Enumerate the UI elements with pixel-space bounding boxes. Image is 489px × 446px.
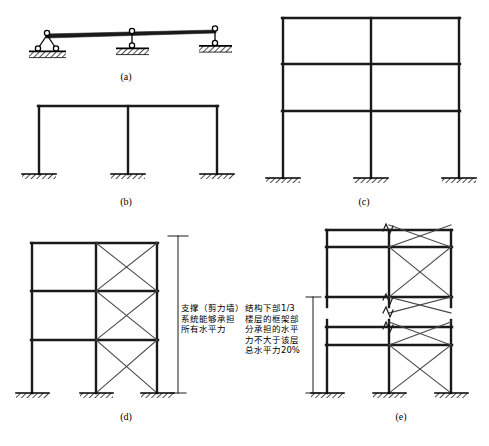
fixed-base-left [266, 178, 300, 183]
annotation-note-d: 支撑（剪力墙） 系统能够承担 所有水平力 [181, 303, 247, 335]
brace-upper-main [389, 247, 451, 297]
annotation-note-e: 结构下部1/3 楼层的框架部 分承担的水平 力不大于该层 总水平力20% [245, 303, 315, 356]
brace-lower-top-partial [389, 322, 451, 345]
brace-story2 [96, 291, 157, 340]
diagram-canvas [0, 0, 489, 446]
break-zigzag [383, 307, 393, 317]
panel-b-group [22, 106, 234, 179]
panel-e-group [306, 224, 468, 398]
panel-caption-c: (c) [334, 197, 394, 207]
panel-d-group [16, 236, 188, 398]
brace-upper-top [389, 225, 451, 247]
fixed-base-left [22, 174, 56, 179]
note-e-line-4: 力不大于该层 [245, 335, 315, 346]
brace-story1 [96, 340, 157, 393]
panel-c-group [266, 18, 476, 183]
ground-hatch [29, 51, 66, 57]
panel-caption-e: (e) [371, 412, 431, 422]
fixed-base-right [442, 178, 476, 183]
note-e-line-2: 楼层的框架部 [245, 314, 315, 325]
note-e-line-5: 总水平力20% [245, 345, 315, 356]
support-roller-right [199, 26, 232, 52]
fixed-base-left [16, 393, 49, 398]
roller-bottom-circle [212, 40, 217, 45]
brace-lower-main [389, 345, 451, 393]
pin-hinge-circle [44, 30, 49, 35]
brace-story3 [96, 243, 157, 291]
fixed-base-middle [80, 393, 113, 398]
break-symbol-mid-lower [383, 307, 393, 317]
fixed-base-middle [354, 178, 388, 183]
panel-caption-b: (b) [96, 197, 156, 207]
roller-bottom-circle [129, 43, 134, 48]
ground-hatch [199, 46, 232, 52]
panel-a-group [29, 26, 232, 58]
brace-upper-bottom-partial [389, 297, 451, 313]
pin-leg-left [39, 35, 47, 47]
fixed-base-right [141, 393, 174, 398]
structural-figure: (a) (b) (c) (d) (e) 支撑（剪力墙） 系统能够承担 所有水平力… [0, 0, 489, 446]
roller-circle-left [35, 46, 40, 51]
ground-hatch [116, 48, 149, 54]
fixed-base-right [435, 393, 468, 398]
note-d-line-1: 支撑（剪力墙） [181, 303, 247, 314]
fixed-base-left [311, 393, 344, 398]
fixed-base-right [200, 174, 234, 179]
note-e-line-1: 结构下部1/3 [245, 303, 315, 314]
fixed-base-middle [373, 393, 406, 398]
note-d-line-2: 系统能够承担 [181, 314, 247, 325]
fixed-base-middle [111, 174, 145, 179]
roller-top-circle [212, 26, 217, 31]
panel-caption-a: (a) [96, 72, 156, 82]
roller-circle-right [53, 46, 58, 51]
roller-top-circle [129, 28, 134, 33]
note-d-line-3: 所有水平力 [181, 324, 247, 335]
panel-caption-d: (d) [96, 412, 156, 422]
note-e-line-3: 分承担的水平 [245, 324, 315, 335]
